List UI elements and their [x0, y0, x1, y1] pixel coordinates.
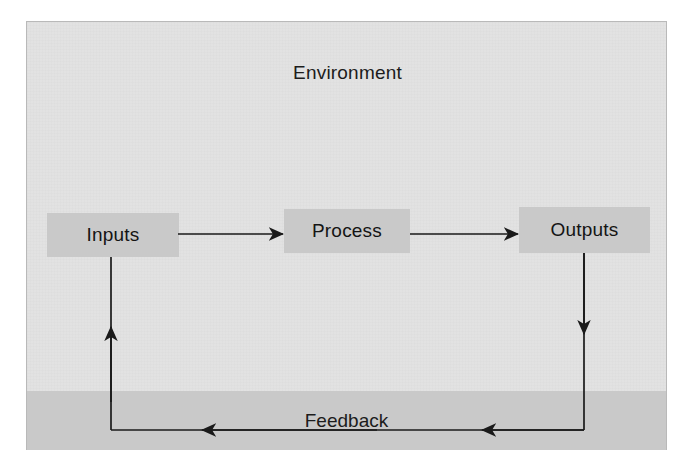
environment-frame: Environment Feedback Inputs Process Outp… [26, 21, 667, 450]
connector-layer [27, 22, 668, 451]
diagram-canvas: Environment Feedback Inputs Process Outp… [0, 0, 691, 462]
